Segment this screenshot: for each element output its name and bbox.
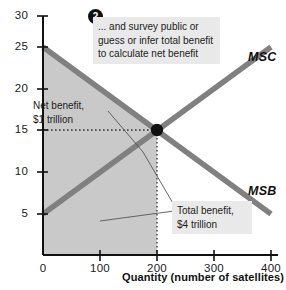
net-benefit-label-line-2: $1 trillion (33, 113, 84, 127)
net-benefit-label: Net benefit, $1 trillion (33, 99, 84, 126)
step-2-callout: ... and survey public or guess or infer … (93, 17, 220, 64)
y-tick-label-10: 10 (2, 165, 28, 177)
total-benefit-shaded-region (43, 47, 157, 255)
msc-curve-label: MSC (248, 50, 277, 64)
equilibrium-point-marker (151, 124, 163, 136)
y-tick-label-5: 5 (2, 207, 28, 219)
step-2-callout-line-3: to calculate net benefit (98, 47, 215, 61)
total-benefit-callout-line-1: Total benefit, (177, 204, 247, 218)
total-benefit-callout: Total benefit, $4 trillion (172, 201, 252, 234)
y-tick-label-15: 15 (2, 123, 28, 135)
y-tick-label-25: 25 (2, 40, 28, 52)
y-tick-label-20: 20 (2, 82, 28, 94)
x-axis-title: Quantity (number of satellites) (0, 271, 284, 283)
y-tick-label-30: 30 (2, 9, 28, 21)
net-benefit-label-line-1: Net benefit, (33, 99, 84, 113)
total-benefit-callout-line-2: $4 trillion (177, 218, 247, 232)
step-2-callout-line-1: ... and survey public or (98, 20, 215, 34)
step-2-callout-line-2: guess or infer total benefit (98, 34, 215, 48)
msb-curve-label: MSB (248, 184, 277, 198)
chart-figure: 30 25 20 15 10 5 0 100 200 300 400 Quant… (0, 0, 286, 290)
